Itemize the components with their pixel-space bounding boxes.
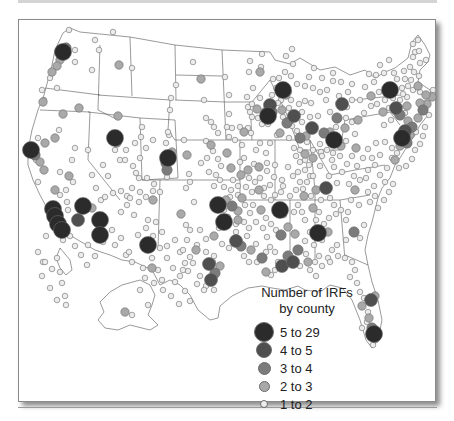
facility-marker xyxy=(130,163,136,169)
facility-marker xyxy=(257,140,263,146)
facility-marker xyxy=(217,177,223,183)
facility-marker xyxy=(35,249,41,255)
facility-marker xyxy=(349,97,355,103)
facility-marker xyxy=(399,85,405,91)
facility-marker xyxy=(140,265,146,271)
facility-marker xyxy=(237,171,245,179)
facility-marker xyxy=(278,106,286,114)
facility-marker xyxy=(197,273,203,279)
facility-marker xyxy=(301,150,309,158)
facility-marker xyxy=(345,89,351,95)
facility-marker xyxy=(367,199,373,205)
facility-marker xyxy=(157,189,163,195)
facility-marker xyxy=(23,142,40,159)
facility-marker xyxy=(226,245,232,251)
facility-marker xyxy=(118,188,124,194)
facility-marker xyxy=(136,175,142,181)
facility-marker xyxy=(313,273,319,279)
facility-marker xyxy=(348,197,354,203)
facility-marker xyxy=(357,177,363,183)
facility-marker xyxy=(137,155,143,161)
facility-marker xyxy=(247,246,255,254)
facility-marker xyxy=(184,237,190,243)
facility-marker xyxy=(131,212,137,218)
facility-marker xyxy=(327,259,333,265)
facility-marker xyxy=(287,193,293,199)
facility-marker xyxy=(373,140,379,146)
facility-marker xyxy=(112,147,118,153)
facility-marker xyxy=(250,202,256,208)
facility-marker xyxy=(291,230,299,238)
facility-marker xyxy=(149,255,155,261)
facility-marker xyxy=(272,249,278,255)
facility-marker xyxy=(367,92,375,100)
facility-marker xyxy=(400,91,406,97)
facility-marker xyxy=(72,243,78,249)
facility-marker xyxy=(271,174,277,180)
facility-marker xyxy=(40,166,48,174)
facility-marker xyxy=(211,183,217,189)
facility-marker xyxy=(92,227,109,244)
facility-marker xyxy=(129,65,135,71)
facility-marker xyxy=(310,85,316,91)
facility-marker xyxy=(287,256,300,269)
facility-marker xyxy=(329,157,335,163)
facility-marker xyxy=(311,65,317,71)
legend-item-3-to-4: 3 to 4 xyxy=(252,359,372,377)
facility-marker xyxy=(291,145,297,151)
facility-marker xyxy=(286,135,292,141)
facility-marker xyxy=(290,61,296,67)
facility-marker xyxy=(312,186,320,194)
facility-marker xyxy=(326,215,332,221)
facility-marker xyxy=(336,98,349,111)
facility-marker xyxy=(257,175,263,181)
facility-marker xyxy=(63,187,69,193)
facility-marker xyxy=(148,264,156,272)
facility-marker xyxy=(153,219,159,225)
facility-marker xyxy=(232,137,238,143)
facility-marker xyxy=(253,105,261,113)
facility-marker xyxy=(352,131,358,137)
facility-marker xyxy=(226,111,232,117)
facility-marker xyxy=(222,74,228,80)
facility-marker xyxy=(290,173,296,179)
facility-marker xyxy=(288,110,301,123)
facility-marker xyxy=(211,287,217,293)
facility-marker xyxy=(356,202,362,208)
facility-marker xyxy=(351,173,357,179)
facility-marker xyxy=(407,64,413,70)
facility-marker xyxy=(244,166,252,174)
facility-marker xyxy=(371,79,377,85)
facility-marker xyxy=(143,225,149,231)
facility-marker xyxy=(319,153,325,159)
facility-marker xyxy=(317,89,323,95)
facility-marker xyxy=(283,53,289,59)
facility-marker xyxy=(72,145,78,151)
facility-marker xyxy=(409,156,415,162)
facility-marker xyxy=(244,94,250,100)
facility-marker xyxy=(315,113,321,119)
facility-marker xyxy=(85,147,91,153)
facility-marker xyxy=(49,266,55,272)
facility-marker xyxy=(203,115,209,121)
legend-list: 5 to 29 4 to 5 3 to 4 2 to 3 1 to 2 xyxy=(252,323,372,413)
facility-marker xyxy=(313,217,319,223)
facility-marker xyxy=(203,236,209,242)
legend-item-1-to-2: 1 to 2 xyxy=(252,395,372,413)
facility-marker xyxy=(181,137,187,143)
legend-item-4-to-5: 4 to 5 xyxy=(252,341,372,359)
facility-marker xyxy=(295,202,301,208)
facility-marker xyxy=(333,124,339,130)
facility-marker xyxy=(414,82,422,90)
facility-marker xyxy=(177,210,185,218)
facility-marker xyxy=(390,102,403,115)
facility-marker xyxy=(331,164,337,170)
facility-marker xyxy=(282,69,288,75)
facility-marker xyxy=(250,85,256,91)
facility-marker xyxy=(112,242,118,248)
facility-marker xyxy=(54,297,60,303)
facility-marker xyxy=(246,225,252,231)
facility-marker xyxy=(124,202,130,208)
facility-marker xyxy=(247,210,253,216)
facility-marker xyxy=(201,97,207,103)
